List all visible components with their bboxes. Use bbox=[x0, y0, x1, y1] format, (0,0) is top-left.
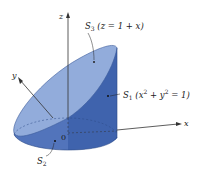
s2-index: 2 bbox=[43, 160, 47, 167]
y-axis-label: y bbox=[12, 72, 17, 80]
surface-s1-label: S1 (x2 + y2 = 1) bbox=[123, 89, 190, 101]
s1-dot bbox=[107, 95, 109, 97]
z-axis-label: z bbox=[59, 13, 63, 21]
s3-equation: (z = 1 + x) bbox=[97, 21, 143, 31]
s1-index: 1 bbox=[129, 94, 133, 101]
origin-label: 0 bbox=[61, 134, 66, 142]
x-axis bbox=[117, 124, 178, 130]
x-axis-arrow-icon bbox=[176, 122, 182, 126]
surface-s2-label: S2 bbox=[37, 157, 47, 167]
s1-eq-post: = 1) bbox=[168, 90, 189, 100]
s3-index: 3 bbox=[91, 25, 95, 32]
z-axis-arrow-icon bbox=[66, 12, 70, 18]
s1-eq-mid: + y bbox=[147, 90, 164, 100]
surface-s3-label: S3 (z = 1 + x) bbox=[85, 22, 144, 32]
s2-dot bbox=[54, 140, 56, 142]
x-axis-label: x bbox=[184, 120, 189, 128]
s3-dot bbox=[93, 61, 95, 63]
